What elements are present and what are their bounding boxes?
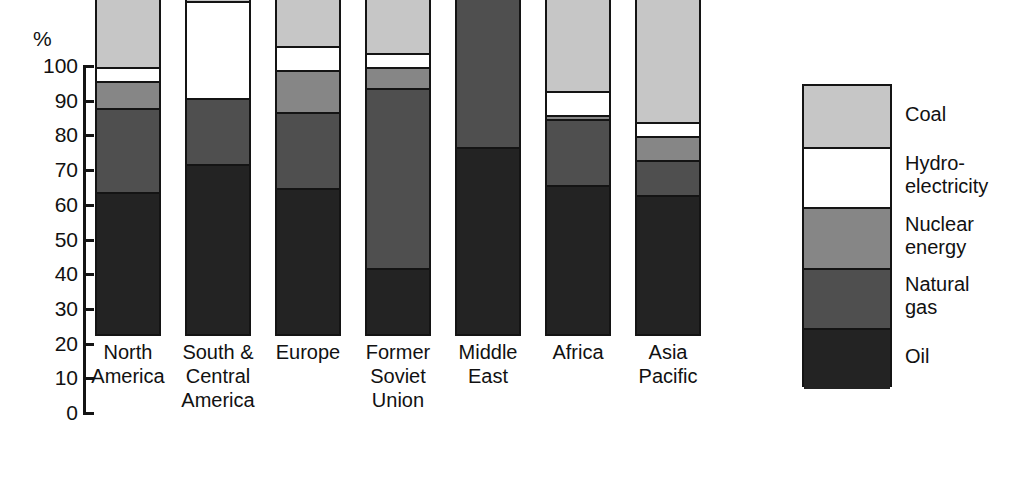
bar-segment-hydro-electricity[interactable] xyxy=(187,1,249,98)
bar-segment-hydro-electricity[interactable] xyxy=(367,53,429,67)
bar-segment-natural-gas[interactable] xyxy=(187,98,249,164)
legend-swatch-nuclear-energy[interactable] xyxy=(804,207,890,268)
legend-labels: CoalHydro- electricityNuclear energyNatu… xyxy=(905,84,1013,387)
bar-segment-coal[interactable] xyxy=(367,0,429,53)
legend-label-hydro-electricity: Hydro- electricity xyxy=(905,152,988,198)
bar-segment-oil[interactable] xyxy=(547,185,609,334)
bar-segment-oil[interactable] xyxy=(187,164,249,334)
x-axis-category-label: Asia Pacific xyxy=(613,340,723,420)
bar-segment-natural-gas[interactable] xyxy=(547,119,609,185)
bar-segment-oil[interactable] xyxy=(277,188,339,334)
bar-segment-coal[interactable] xyxy=(277,0,339,46)
legend-swatch-oil[interactable] xyxy=(804,328,890,389)
bar-segment-natural-gas[interactable] xyxy=(367,88,429,268)
bar-segment-nuclear-energy[interactable] xyxy=(367,67,429,88)
bar-segment-nuclear-energy[interactable] xyxy=(97,81,159,109)
bar-segment-natural-gas[interactable] xyxy=(457,0,519,147)
bar-segment-coal[interactable] xyxy=(547,0,609,91)
legend-swatch-natural-gas[interactable] xyxy=(804,268,890,329)
legend-label-coal: Coal xyxy=(905,103,946,126)
bar-segment-natural-gas[interactable] xyxy=(277,112,339,188)
legend-label-oil: Oil xyxy=(905,345,929,368)
legend-swatch-hydro-electricity[interactable] xyxy=(804,147,890,208)
bar-stack[interactable] xyxy=(365,0,431,336)
bar-segment-natural-gas[interactable] xyxy=(637,160,699,195)
bar-stack[interactable] xyxy=(275,0,341,336)
stacked-bar-chart: % 0102030405060708090100 North AmericaSo… xyxy=(0,0,1013,496)
bar-stack[interactable] xyxy=(545,0,611,336)
bar-segment-coal[interactable] xyxy=(97,0,159,67)
bar-segment-nuclear-energy[interactable] xyxy=(277,70,339,112)
bar-segment-hydro-electricity[interactable] xyxy=(97,67,159,81)
bar-segment-nuclear-energy[interactable] xyxy=(637,136,699,160)
bar-segment-coal[interactable] xyxy=(637,0,699,122)
plot-area: North AmericaSouth & Central AmericaEuro… xyxy=(0,0,760,420)
legend-label-natural-gas: Natural gas xyxy=(905,273,969,319)
bar-segment-hydro-electricity[interactable] xyxy=(547,91,609,115)
bar-segment-hydro-electricity[interactable] xyxy=(637,122,699,136)
legend-swatch-coal[interactable] xyxy=(804,86,890,147)
bar-segment-oil[interactable] xyxy=(457,147,519,334)
bar-stack[interactable] xyxy=(95,0,161,336)
bar-segment-hydro-electricity[interactable] xyxy=(277,46,339,70)
bar-segment-oil[interactable] xyxy=(367,268,429,334)
bar-stack[interactable] xyxy=(185,0,251,336)
legend-swatches xyxy=(802,84,892,387)
legend-label-nuclear-energy: Nuclear energy xyxy=(905,213,974,259)
bar-segment-oil[interactable] xyxy=(637,195,699,334)
bar-segment-oil[interactable] xyxy=(97,192,159,334)
bar-stack[interactable] xyxy=(455,0,521,336)
bar-stack[interactable] xyxy=(635,0,701,336)
bar-segment-natural-gas[interactable] xyxy=(97,108,159,191)
